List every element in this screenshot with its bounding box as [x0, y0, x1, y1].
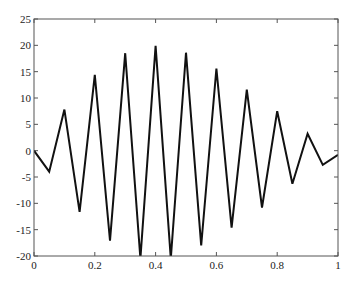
y-tick-label: -10	[16, 197, 31, 209]
x-tick-label: 0.6	[210, 259, 224, 271]
line-chart: 2520151050-5-10-15-20 00.20.40.60.81	[0, 0, 348, 284]
y-tick-label: 0	[26, 145, 32, 157]
y-tick-label: 10	[20, 92, 32, 104]
x-tick-label: 1	[335, 259, 341, 271]
data-line	[34, 46, 338, 259]
y-tick-label: -5	[22, 171, 32, 183]
y-tick-label: -20	[16, 250, 31, 262]
x-tick-label: 0.4	[149, 259, 163, 271]
y-tick-label: 15	[20, 66, 32, 78]
x-tick-label: 0.2	[88, 259, 102, 271]
y-tick-label: -15	[16, 224, 31, 236]
y-axis-ticks: 2520151050-5-10-15-20	[16, 13, 338, 262]
x-tick-label: 0.8	[270, 259, 284, 271]
x-tick-label: 0	[31, 259, 37, 271]
y-tick-label: 5	[26, 118, 32, 130]
y-tick-label: 25	[20, 13, 32, 25]
y-tick-label: 20	[20, 39, 32, 51]
